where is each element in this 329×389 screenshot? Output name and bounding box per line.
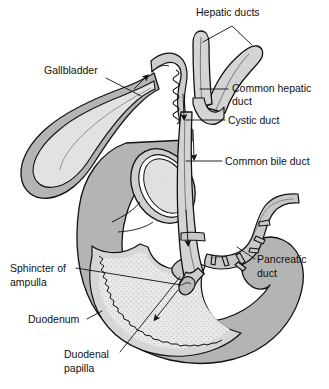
pancreatic-tributary-5 — [211, 255, 216, 265]
anatomical-figure: Hepatic ducts Gallbladder Common hepatic… — [0, 0, 329, 389]
label-duodenum: Duodenum — [28, 313, 80, 325]
label-pancreatic-duct-line1: Pancreatic — [257, 253, 307, 265]
label-duodenal-papilla-line1: Duodenal — [64, 348, 109, 360]
label-sphincter-of-ampulla-line1: Sphincter of — [10, 262, 66, 274]
label-duodenal-papilla-line2: papilla — [64, 362, 95, 374]
hepatic-duct-left — [193, 31, 212, 108]
pancreatic-duct-accessory — [181, 232, 205, 241]
diagram-canvas: Hepatic ducts Gallbladder Common hepatic… — [0, 0, 329, 389]
label-sphincter-of-ampulla-line2: ampulla — [10, 276, 47, 288]
label-common-hepatic-duct-line1: Common hepatic — [232, 82, 311, 94]
label-cystic-duct: Cystic duct — [228, 114, 279, 126]
label-common-bile-duct: Common bile duct — [225, 155, 310, 167]
label-gallbladder: Gallbladder — [44, 64, 98, 76]
label-pancreatic-duct-line2: duct — [257, 267, 277, 279]
label-hepatic-ducts: Hepatic ducts — [196, 6, 260, 18]
label-common-hepatic-duct-line2: duct — [232, 95, 252, 107]
